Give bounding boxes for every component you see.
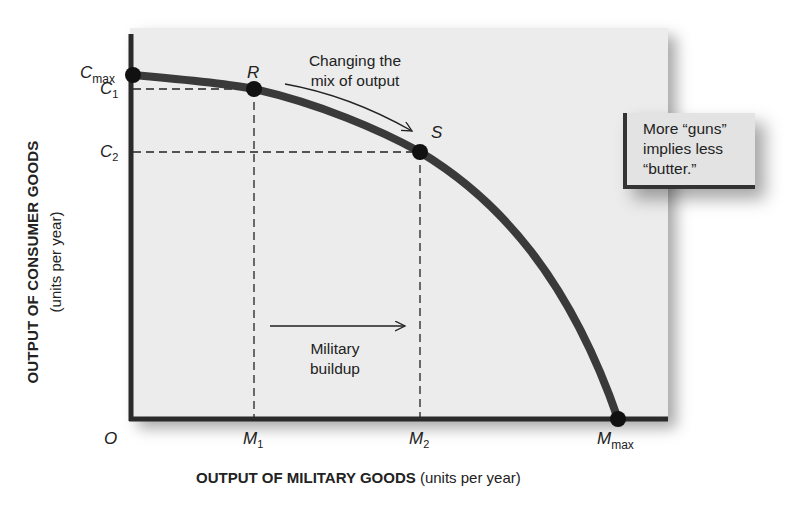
x-tick-m1: M1 — [243, 429, 263, 450]
buildup-annotation: Military buildup — [285, 339, 385, 379]
guns-butter-callout: More “guns” implies less “butter.” — [623, 113, 755, 189]
y-tick-c2: C2 — [100, 142, 118, 163]
point-r — [246, 81, 262, 97]
x-tick-mmax: Mmax — [597, 429, 634, 452]
point-cmax — [125, 67, 141, 83]
point-mmax — [610, 411, 626, 427]
y-axis-unit: (units per year) — [47, 212, 64, 313]
point-s — [412, 144, 428, 160]
mix-arrow — [285, 84, 412, 131]
point-r-label: R — [247, 63, 259, 83]
x-axis-title: OUTPUT OF MILITARY GOODS (units per year… — [196, 469, 521, 486]
point-s-label: S — [431, 123, 442, 143]
origin-label: O — [104, 429, 117, 449]
x-tick-m2: M2 — [409, 429, 429, 450]
y-tick-c1: C1 — [100, 79, 118, 100]
y-axis-title: OUTPUT OF CONSUMER GOODS — [24, 140, 41, 383]
mix-annotation: Changing the mix of output — [290, 51, 420, 91]
